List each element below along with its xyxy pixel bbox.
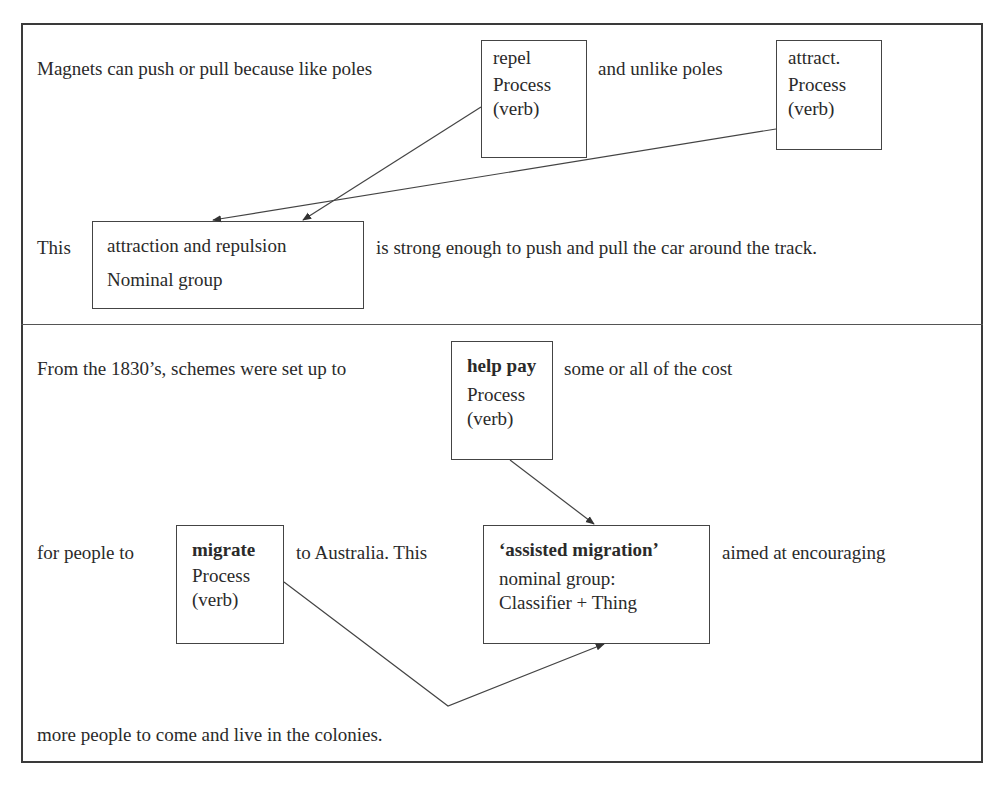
- ex2-line2-after: aimed at encouraging: [722, 542, 886, 564]
- ex1-line1-middle: and unlike poles: [598, 58, 723, 80]
- box-assisted-migration: ‘assisted migration’ nominal group: Clas…: [483, 525, 710, 644]
- ex2-line1-after: some or all of the cost: [564, 358, 732, 380]
- box-help-pay-sublabel: (verb): [467, 407, 542, 431]
- ex2-line1-before: From the 1830’s, schemes were set up to: [37, 358, 346, 380]
- box-migrate: migrate Process (verb): [176, 525, 284, 644]
- box-nominal-word: attraction and repulsion: [107, 234, 353, 258]
- ex1-line2-before: This: [37, 237, 71, 259]
- ex2-line2-before: for people to: [37, 542, 134, 564]
- ex1-line2-after: is strong enough to push and pull the ca…: [376, 237, 817, 259]
- box-repel-sublabel: (verb): [493, 97, 576, 121]
- box-help-pay-label: Process: [467, 383, 542, 407]
- ex2-line3: more people to come and live in the colo…: [37, 724, 383, 746]
- box-assisted-label: nominal group:: [499, 567, 699, 591]
- box-repel-word: repel: [493, 46, 576, 70]
- ex1-line1-before: Magnets can push or pull because like po…: [37, 58, 372, 80]
- box-attract-word: attract.: [788, 46, 871, 70]
- box-help-pay: help pay Process (verb): [451, 341, 553, 460]
- box-repel: repel Process (verb): [481, 40, 587, 158]
- box-migrate-word: migrate: [192, 538, 273, 562]
- box-migrate-sublabel: (verb): [192, 588, 273, 612]
- box-attract-sublabel: (verb): [788, 97, 871, 121]
- box-assisted-sublabel: Classifier + Thing: [499, 591, 699, 615]
- box-attract: attract. Process (verb): [776, 40, 882, 150]
- box-nominal-label: Nominal group: [107, 268, 353, 292]
- box-attract-label: Process: [788, 73, 871, 97]
- box-assisted-word: ‘assisted migration’: [499, 538, 699, 562]
- section-divider: [21, 324, 983, 325]
- box-help-pay-word: help pay: [467, 354, 542, 378]
- ex2-line2-middle: to Australia. This: [296, 542, 427, 564]
- box-nominal-group: attraction and repulsion Nominal group: [92, 221, 364, 309]
- box-repel-label: Process: [493, 73, 576, 97]
- box-migrate-label: Process: [192, 564, 273, 588]
